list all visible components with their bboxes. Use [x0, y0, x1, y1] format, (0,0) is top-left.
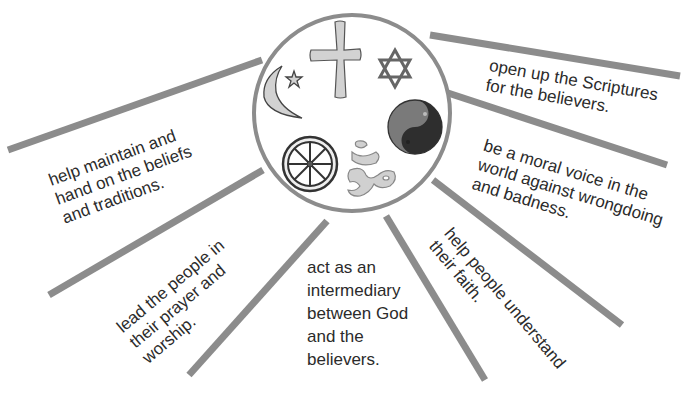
spoke-line-maintain-top	[8, 60, 262, 150]
spoke-label-intermediary: act as an intermediary between God and t…	[307, 256, 408, 371]
dharma-wheel-icon	[283, 137, 337, 191]
yin-yang-icon	[388, 100, 442, 154]
